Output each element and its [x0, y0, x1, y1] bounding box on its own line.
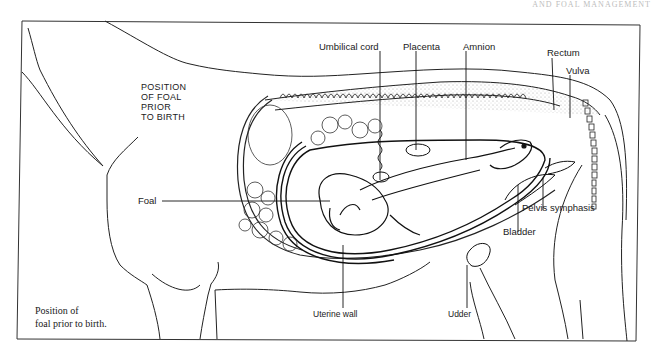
label-foal: Foal	[138, 196, 156, 206]
bladder-udder	[467, 161, 575, 266]
label-vulva: Vulva	[566, 66, 589, 76]
label-rectum: Rectum	[547, 48, 580, 58]
spine	[265, 82, 600, 115]
figure-caption: Position of foal prior to birth.	[35, 304, 107, 330]
label-bladder: Bladder	[503, 227, 536, 237]
label-placenta: Placenta	[403, 42, 440, 52]
tail-vertebrae	[583, 100, 597, 209]
label-umbilical-cord: Umbilical cord	[319, 42, 379, 52]
diagram-title: POSITION OF FOAL PRIOR TO BIRTH	[141, 82, 186, 122]
caption-line: foal prior to birth.	[35, 317, 107, 330]
title-line: PRIOR	[141, 102, 186, 112]
title-line: POSITION	[141, 82, 186, 92]
label-uterine-wall: Uterine wall	[313, 310, 357, 319]
caption-line: Position of	[35, 304, 107, 317]
label-pelvis-symphasis: Pelvis symphasis	[522, 203, 595, 213]
title-line: OF FOAL	[141, 92, 186, 102]
label-amnion: Amnion	[463, 42, 495, 52]
horse-outline	[22, 21, 627, 341]
title-line: TO BIRTH	[141, 112, 186, 122]
label-udder: Udder	[448, 310, 471, 319]
uterus	[277, 140, 550, 263]
